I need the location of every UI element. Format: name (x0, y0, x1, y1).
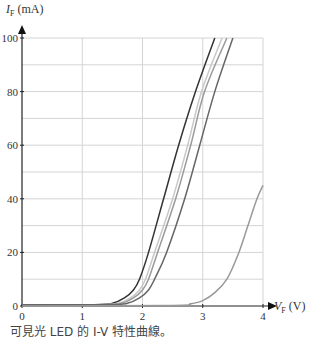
x-tick-label: 0 (19, 310, 25, 322)
series-line (22, 38, 215, 305)
y-tick-label: 100 (2, 32, 19, 44)
x-tick-label: 4 (260, 310, 266, 322)
y-tick-label: 20 (7, 246, 19, 258)
x-axis-label: VF (V) (274, 299, 305, 315)
y-tick-label: 80 (7, 86, 19, 98)
y-axis-arrow-icon (18, 25, 26, 34)
y-axis-label: IF (mA) (6, 2, 43, 18)
x-tick-label: 2 (140, 310, 146, 322)
y-tick-label: 0 (13, 300, 19, 312)
y-tick-label: 60 (7, 139, 19, 151)
figure-caption: 可見光 LED 的 I-V 特性曲線。 (10, 322, 172, 339)
y-tick-label: 40 (7, 193, 19, 205)
series-line (22, 38, 227, 305)
series-line (22, 38, 233, 305)
x-tick-label: 3 (200, 310, 206, 322)
x-tick-label: 1 (80, 310, 86, 322)
